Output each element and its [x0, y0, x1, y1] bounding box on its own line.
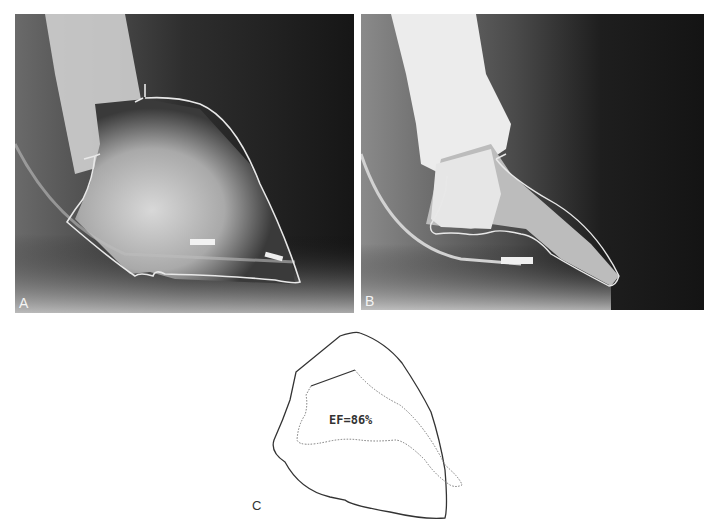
- end-systolic-outline: [297, 370, 462, 487]
- valve-plane-line: [311, 370, 355, 386]
- angiogram-image-b: B: [361, 14, 704, 310]
- panel-a-angiogram: A: [15, 14, 354, 313]
- panel-label-c: C: [252, 498, 261, 513]
- panel-b-angiogram: B: [361, 14, 704, 310]
- angiogram-image-a: A: [15, 14, 354, 313]
- ef-annotation: EF=86%: [329, 413, 372, 427]
- panel-label-b: B: [365, 293, 374, 309]
- panel-label-a: A: [19, 295, 29, 311]
